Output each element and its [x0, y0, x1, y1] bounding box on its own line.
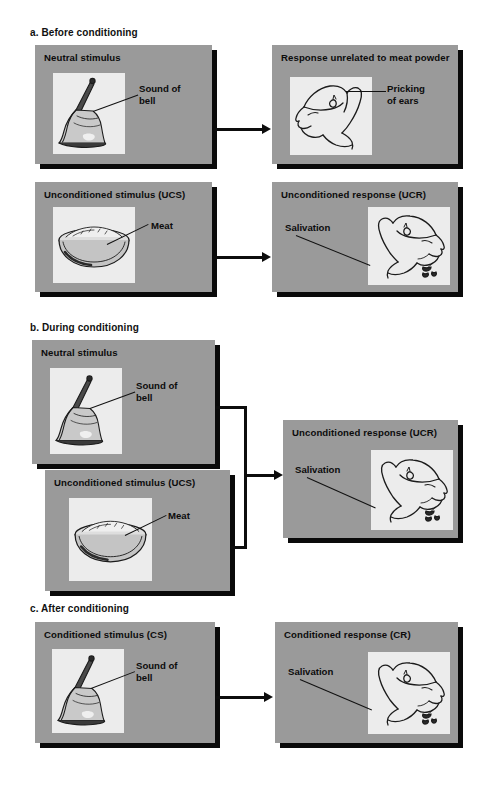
arrow-shaft	[244, 474, 276, 477]
meat-bowl-plate-a	[53, 207, 135, 283]
bracket-top-arm	[216, 406, 247, 409]
panel-neutral-stimulus-b: Neutral stimulus Sound of bell	[32, 340, 215, 464]
dog-head-salivating-illustration	[368, 652, 450, 734]
dog-head-salivating-plate-c	[368, 652, 450, 734]
panel-title-ucs-a: Unconditioned stimulus (UCS)	[44, 189, 204, 201]
meat-bowl-illustration	[53, 207, 135, 283]
panel-title-ucr-a: Unconditioned response (UCR)	[281, 189, 450, 201]
figure-canvas: a. Before conditioning Neutral stimulus …	[0, 0, 498, 793]
callout-salivation-c: Salivation	[288, 666, 333, 678]
arrow-shaft	[213, 256, 264, 259]
arrow-head	[264, 692, 273, 702]
leader-line-salivation-c	[300, 679, 372, 710]
dog-head-salivating-illustration	[371, 450, 453, 530]
arrow-shaft	[213, 128, 264, 131]
panel-title-ucs-b: Unconditioned stimulus (UCS)	[54, 477, 222, 489]
panel-response-unrelated-a: Response unrelated to meat powder	[272, 45, 458, 164]
meat-bowl-illustration	[69, 498, 152, 581]
section-heading-c: c. After conditioning	[30, 603, 129, 614]
panel-title-cs-c: Conditioned stimulus (CS)	[44, 629, 207, 641]
arrow-head	[262, 124, 271, 134]
callout-meat-b: Meat	[168, 510, 190, 522]
dog-head-alert-illustration	[290, 77, 372, 155]
dog-head-salivating-plate-a	[368, 207, 450, 285]
panel-title-response-unrelated-a: Response unrelated to meat powder	[281, 52, 450, 64]
leader-line-pricking-of-ears-a	[346, 91, 386, 92]
bell-illustration	[53, 73, 125, 154]
panel-cs-c: Conditioned stimulus (CS) Sound of bell	[35, 622, 215, 743]
bell-illustration	[50, 368, 122, 454]
panel-ucr-a: Unconditioned response (UCR)	[272, 182, 458, 292]
panel-title-ucr-b: Unconditioned response (UCR)	[292, 427, 450, 439]
callout-sound-of-bell-c: Sound of bell	[136, 660, 178, 683]
callout-pricking-of-ears-a: Pricking of ears	[387, 83, 425, 106]
panel-cr-c: Conditioned response (CR)	[275, 622, 458, 743]
panel-title-cr-c: Conditioned response (CR)	[284, 629, 450, 641]
panel-ucs-b: Unconditioned stimulus (UCS) Meat	[45, 470, 230, 591]
panel-title-neutral-stimulus-b: Neutral stimulus	[41, 347, 207, 359]
section-heading-b: b. During conditioning	[30, 322, 139, 333]
panel-neutral-stimulus-a: Neutral stimulus Sound of bell	[35, 45, 212, 164]
bracket-spine	[244, 406, 247, 549]
leader-line-salivation-b	[307, 477, 376, 508]
leader-line-salivation-a	[296, 235, 371, 266]
meat-bowl-plate-b	[69, 498, 152, 581]
bell-illustration-plate-a	[53, 73, 125, 154]
callout-salivation-b: Salivation	[295, 464, 340, 476]
dog-head-alert-plate-a	[290, 77, 372, 155]
callout-meat-a: Meat	[151, 220, 173, 232]
panel-ucs-a: Unconditioned stimulus (UCS) Meat	[35, 182, 212, 292]
dog-head-salivating-illustration	[368, 207, 450, 285]
callout-sound-of-bell-b: Sound of bell	[136, 380, 178, 403]
callout-sound-of-bell-a: Sound of bell	[139, 83, 181, 106]
bell-illustration-plate-c	[52, 649, 124, 733]
panel-title-neutral-stimulus-a: Neutral stimulus	[44, 52, 204, 64]
bell-illustration-plate-b	[50, 368, 122, 454]
dog-head-salivating-plate-b	[371, 450, 453, 530]
bell-illustration	[52, 649, 124, 733]
arrow-shaft	[216, 696, 266, 699]
arrow-head	[262, 252, 271, 262]
section-heading-a: a. Before conditioning	[30, 27, 138, 38]
panel-ucr-b: Unconditioned response (UCR)	[283, 420, 458, 538]
callout-salivation-a: Salivation	[285, 222, 330, 234]
arrow-head	[274, 470, 283, 480]
